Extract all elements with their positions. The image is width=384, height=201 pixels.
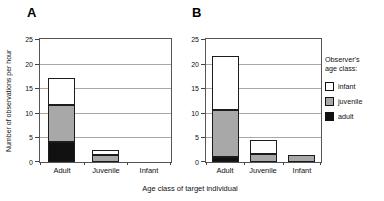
bar-segment-infant-juvenile <box>92 150 119 155</box>
x-tick <box>127 162 128 165</box>
legend-swatch-adult <box>325 112 334 121</box>
y-tick-label-20: 20 <box>13 61 33 68</box>
legend-item-adult: adult <box>325 112 384 121</box>
legend-swatch-infant <box>325 82 334 91</box>
y-tick-25 <box>35 39 39 40</box>
y-tick-label-5: 5 <box>13 134 33 141</box>
x-category-label-juvenile: Juvenile <box>84 167 128 175</box>
bar-segment-juvenile-adult <box>48 105 75 142</box>
x-category-label-infant: Infant <box>127 167 171 175</box>
x-tick <box>206 162 207 165</box>
bar-segment-juvenile-adult <box>212 110 239 157</box>
x-category-label-adult: Adult <box>206 167 244 175</box>
y-tick-label-10: 10 <box>179 110 199 117</box>
legend-title-line2: age class: <box>325 64 384 73</box>
y-tick-0 <box>201 161 205 162</box>
y-tick-10 <box>201 113 205 114</box>
legend-swatch-juvenile <box>325 97 334 106</box>
bar-segment-infant-adult <box>48 78 75 105</box>
x-tick <box>320 162 321 165</box>
legend: Observer's age class: infantjuvenileadul… <box>325 55 384 127</box>
plot-area-a: 0510152025AdultJuvenileInfant <box>39 38 172 163</box>
x-tick <box>40 162 41 165</box>
y-tick-15 <box>201 88 205 89</box>
legend-item-label-infant: infant <box>338 83 356 91</box>
legend-title: Observer's age class: <box>325 55 384 73</box>
y-tick-label-0: 0 <box>13 159 33 166</box>
y-tick-label-10: 10 <box>13 110 33 117</box>
y-tick-label-20: 20 <box>179 61 199 68</box>
bar-segment-adult-adult <box>212 157 239 162</box>
bar-segment-juvenile-juvenile <box>250 154 277 162</box>
bar-segment-juvenile-juvenile <box>92 155 119 162</box>
y-tick-5 <box>201 137 205 138</box>
y-tick-5 <box>35 137 39 138</box>
bar-segment-juvenile-infant <box>288 155 315 162</box>
y-tick-label-0: 0 <box>179 159 199 166</box>
gridline-20 <box>40 64 171 65</box>
legend-item-label-adult: adult <box>338 113 354 121</box>
y-tick-20 <box>35 64 39 65</box>
figure: A B Number of observations per hour 0510… <box>0 0 384 201</box>
x-tick <box>84 162 85 165</box>
plot-area-b: 0510152025AdultJuvenileInfant <box>205 38 322 163</box>
x-tick <box>283 162 284 165</box>
y-tick-label-25: 25 <box>13 36 33 43</box>
panel-b-label: B <box>192 6 201 19</box>
x-category-label-juvenile: Juvenile <box>244 167 282 175</box>
y-tick-15 <box>35 88 39 89</box>
legend-item-label-juvenile: juvenile <box>338 98 362 106</box>
legend-item-juvenile: juvenile <box>325 97 384 106</box>
bar-segment-infant-juvenile <box>250 140 277 154</box>
y-tick-10 <box>35 113 39 114</box>
x-axis-title: Age class of target individual <box>60 184 320 193</box>
panel-a-label: A <box>27 6 36 19</box>
y-tick-label-25: 25 <box>179 36 199 43</box>
y-axis-title: Number of observations per hour <box>3 38 14 163</box>
x-category-label-infant: Infant <box>283 167 321 175</box>
y-tick-0 <box>35 161 39 162</box>
legend-items: infantjuvenileadult <box>325 82 384 121</box>
bar-segment-infant-adult <box>212 56 239 110</box>
x-tick <box>170 162 171 165</box>
y-tick-25 <box>201 39 205 40</box>
y-tick-label-15: 15 <box>13 85 33 92</box>
x-category-label-adult: Adult <box>40 167 84 175</box>
legend-title-line1: Observer's <box>325 55 384 64</box>
legend-item-infant: infant <box>325 82 384 91</box>
x-tick <box>244 162 245 165</box>
bar-segment-adult-adult <box>48 142 75 162</box>
y-tick-20 <box>201 64 205 65</box>
y-tick-label-5: 5 <box>179 134 199 141</box>
y-tick-label-15: 15 <box>179 85 199 92</box>
